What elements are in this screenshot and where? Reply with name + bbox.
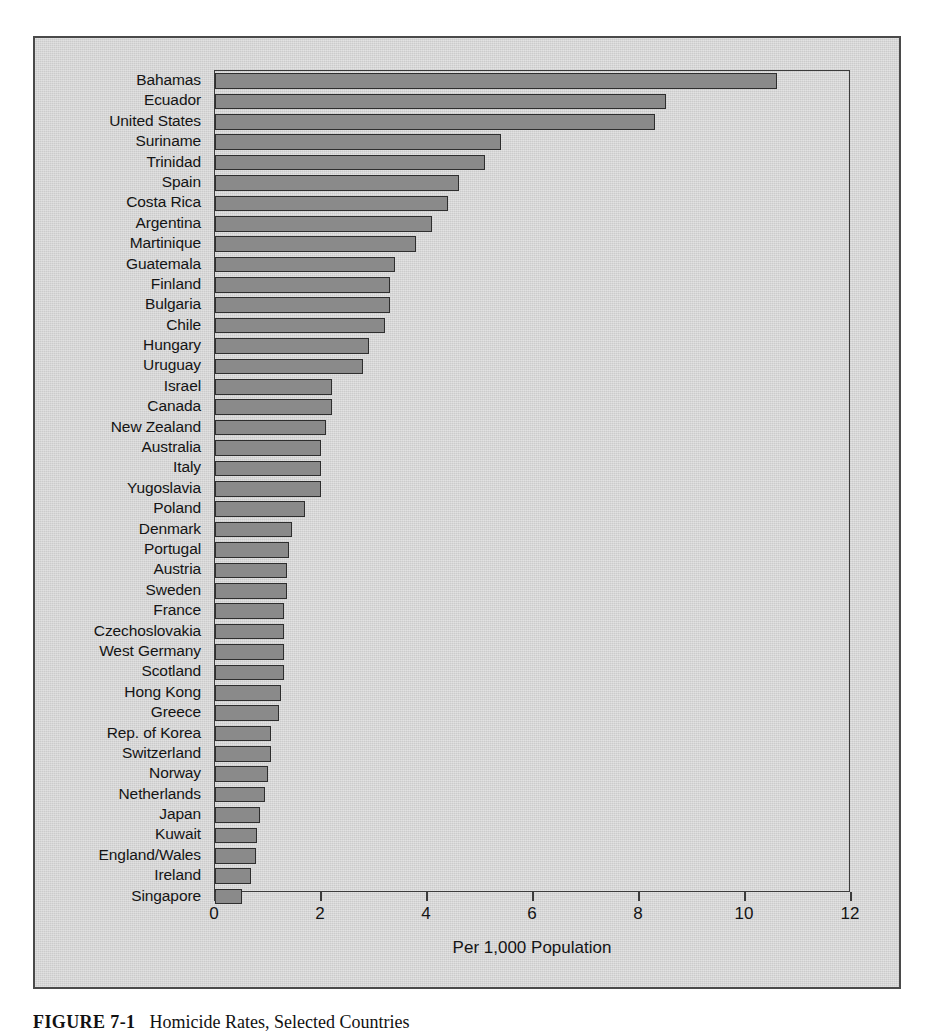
category-label: Scotland [35,661,208,681]
bar [215,685,281,701]
figure-caption-label: FIGURE 7-1 [33,1012,136,1032]
bar-row [215,825,849,845]
x-axis-tick-label: 12 [841,904,860,924]
category-label: New Zealand [35,417,208,437]
bar-row [215,91,849,111]
bar-row [215,295,849,315]
bar-row [215,458,849,478]
bar-row [215,866,849,886]
x-axis-tick [214,892,216,901]
bar [215,216,432,232]
bar-row [215,377,849,397]
bar [215,236,416,252]
category-label: Guatemala [35,254,208,274]
category-label: Rep. of Korea [35,723,208,743]
bar-row [215,234,849,254]
bar-row [215,560,849,580]
category-label: Costa Rica [35,192,208,212]
bar [215,134,501,150]
category-label: Ecuador [35,90,208,110]
category-label: Netherlands [35,784,208,804]
bar-row [215,418,849,438]
bar [215,828,257,844]
bar [215,420,326,436]
category-label: Finland [35,274,208,294]
bar-row [215,173,849,193]
bar-row [215,336,849,356]
bar-row [215,71,849,91]
bar [215,522,292,538]
category-label: Martinique [35,233,208,253]
bar [215,481,321,497]
x-axis-tick [532,892,534,901]
bar-row [215,622,849,642]
category-label: Bahamas [35,70,208,90]
bar [215,868,251,884]
category-label: Spain [35,172,208,192]
category-label: Czechoslovakia [35,621,208,641]
bar [215,583,287,599]
bar [215,665,284,681]
x-axis-tick-label: 10 [735,904,754,924]
bar-row [215,132,849,152]
bar [215,277,390,293]
bar [215,603,284,619]
bar-row [215,642,849,662]
bar-row [215,520,849,540]
bar-row [215,275,849,295]
bar [215,624,284,640]
bar-row [215,316,849,336]
bar-row [215,193,849,213]
category-label: Kuwait [35,824,208,844]
bar [215,257,395,273]
x-axis-tick [426,892,428,901]
bar-row [215,662,849,682]
y-axis-category-labels: BahamasEcuadorUnited StatesSurinameTrini… [35,70,208,892]
bar [215,114,655,130]
bar [215,297,390,313]
category-label: West Germany [35,641,208,661]
x-axis-title: Per 1,000 Population [214,938,850,958]
bar [215,746,271,762]
bar [215,440,321,456]
figure-panel: BahamasEcuadorUnited StatesSurinameTrini… [33,36,901,989]
bar [215,542,289,558]
bar [215,155,485,171]
category-label: Switzerland [35,743,208,763]
category-label: Singapore [35,886,208,906]
figure-caption: FIGURE 7-1Homicide Rates, Selected Count… [33,1012,913,1032]
x-axis-tick [744,892,746,901]
bar [215,399,332,415]
category-label: Greece [35,702,208,722]
category-label: Chile [35,315,208,335]
bar-row [215,540,849,560]
category-label: Italy [35,457,208,477]
category-label: Denmark [35,519,208,539]
x-axis-tick-label: 4 [421,904,430,924]
category-label: Israel [35,376,208,396]
x-axis-tick-label: 8 [633,904,642,924]
bar [215,359,363,375]
x-axis-tick [850,892,852,901]
category-label: Poland [35,498,208,518]
category-label: Trinidad [35,152,208,172]
bar-row [215,581,849,601]
bar [215,379,332,395]
x-axis-tick-label: 0 [209,904,218,924]
bar-row [215,397,849,417]
category-label: England/Wales [35,845,208,865]
x-axis-tick-labels: 024681012 [214,904,850,930]
category-label: Portugal [35,539,208,559]
bar-row [215,846,849,866]
bar-row [215,479,849,499]
bar [215,175,459,191]
bar-row [215,153,849,173]
bar [215,848,256,864]
category-label: Argentina [35,213,208,233]
category-label: Hong Kong [35,682,208,702]
bar [215,73,777,89]
bar [215,807,260,823]
bars-layer [215,71,849,891]
bar-chart: BahamasEcuadorUnited StatesSurinameTrini… [35,38,899,987]
category-label: Suriname [35,131,208,151]
